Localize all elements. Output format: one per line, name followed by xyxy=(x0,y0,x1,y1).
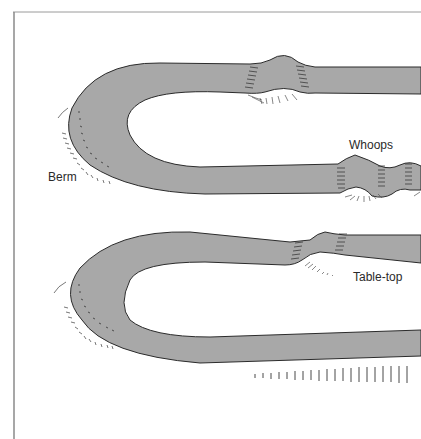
table-top-shadow-lines xyxy=(305,262,333,276)
lower-track xyxy=(70,232,421,363)
start-gate-ticks xyxy=(255,366,407,383)
whoops-label: Whoops xyxy=(349,138,393,152)
table-top-label: Table-top xyxy=(353,270,402,284)
upper-track xyxy=(69,55,421,197)
upper-hump-shadow-lines xyxy=(248,94,297,104)
bmx-track-diagram xyxy=(0,0,421,439)
berm-label: Berm xyxy=(48,170,77,184)
